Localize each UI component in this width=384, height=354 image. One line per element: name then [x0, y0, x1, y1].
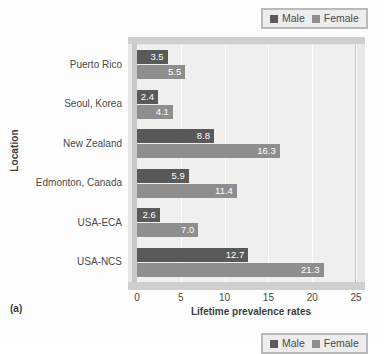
bar-value-label: 16.3	[257, 147, 276, 157]
bar-value-label: 11.4	[215, 186, 233, 196]
bar-value-label: 21.3	[301, 265, 320, 275]
legend-entry-male-next: Male	[270, 338, 305, 349]
x-tick-label: 5	[178, 292, 184, 303]
x-tick-label: 15	[263, 292, 274, 303]
figure-label: (a)	[10, 303, 22, 314]
legend-entry-male: Male	[270, 13, 305, 24]
legend-swatch-female-icon	[312, 340, 320, 348]
bar-female: 16.3	[137, 144, 280, 158]
legend-label-male: Male	[282, 13, 305, 24]
y-tick-label: Seoul, Korea	[64, 98, 122, 109]
bar-value-label: 5.5	[168, 68, 181, 78]
bar-male: 3.5	[137, 50, 168, 64]
legend-swatch-male-icon	[270, 15, 278, 23]
y-axis-tick-labels: Puerto RicoSeoul, KoreaNew ZealandEdmont…	[0, 37, 122, 290]
plot-top-band	[128, 37, 365, 44]
legend-entry-female: Female	[312, 13, 359, 24]
bar-male: 8.8	[137, 129, 214, 143]
legend-swatch-male-icon	[270, 340, 278, 348]
x-tick-label: 20	[307, 292, 318, 303]
legend-label-female-next: Female	[324, 338, 359, 349]
y-tick-label: Puerto Rico	[70, 59, 122, 70]
bar-value-label: 2.6	[143, 211, 156, 221]
x-tick-label: 0	[134, 292, 140, 303]
bar-female: 5.5	[137, 65, 185, 79]
bar-female: 4.1	[137, 105, 173, 119]
gridline	[225, 45, 226, 282]
bar-male: 5.9	[137, 169, 189, 183]
gridline	[356, 45, 357, 282]
y-tick-label: USA-ECA	[78, 217, 122, 228]
chart-legend-next-figure: Male Female	[261, 333, 368, 354]
gridline	[268, 45, 269, 282]
legend-label-male-next: Male	[282, 338, 305, 349]
x-tick-label: 10	[219, 292, 230, 303]
bar-value-label: 5.9	[171, 171, 184, 181]
bar-male: 12.7	[137, 248, 248, 262]
bar-female: 7.0	[137, 223, 198, 237]
bar-female: 21.3	[137, 263, 324, 277]
bar-female: 11.4	[137, 184, 237, 198]
chart-legend: Male Female	[261, 8, 368, 29]
bar-value-label: 12.7	[226, 250, 245, 260]
bar-male: 2.6	[137, 208, 160, 222]
bar-value-label: 2.4	[141, 92, 154, 102]
category-axis-spine	[132, 44, 137, 282]
bar-value-label: 3.5	[150, 53, 163, 63]
gridline	[181, 45, 182, 282]
plot-area: 3.55.52.44.18.816.35.911.42.67.012.721.3	[128, 37, 365, 290]
bar-value-label: 4.1	[156, 107, 169, 117]
bar-value-label: 8.8	[197, 132, 210, 142]
bar-male: 2.4	[137, 90, 158, 104]
x-tick-label: 25	[350, 292, 361, 303]
legend-swatch-female-icon	[312, 15, 320, 23]
y-tick-label: New Zealand	[63, 138, 122, 149]
y-tick-label: Edmonton, Canada	[36, 177, 122, 188]
legend-entry-female-next: Female	[312, 338, 359, 349]
gridline	[312, 45, 313, 282]
value-axis-line	[128, 282, 365, 290]
x-axis-title: Lifetime prevalence rates	[137, 306, 365, 317]
plot-inner-area: 3.55.52.44.18.816.35.911.42.67.012.721.3	[137, 45, 356, 282]
legend-label-female: Female	[324, 13, 359, 24]
y-tick-label: USA-NCS	[77, 256, 122, 267]
bar-value-label: 7.0	[181, 226, 194, 236]
